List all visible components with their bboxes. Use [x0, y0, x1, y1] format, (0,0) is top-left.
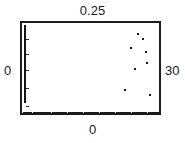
bottom-axis-label: 0 — [0, 123, 185, 136]
y-axis-tick — [26, 88, 29, 89]
left-axis-label: 0 — [4, 64, 11, 77]
plot-canvas — [22, 23, 159, 113]
data-point — [149, 94, 151, 96]
baseline-marker — [29, 112, 32, 115]
data-point — [137, 33, 139, 35]
scatter-plot-figure: 0.25 0 30 0 — [0, 0, 185, 143]
baseline-marker — [157, 112, 160, 115]
y-axis-tick — [26, 54, 29, 55]
plot-frame — [20, 21, 161, 115]
y-axis-tick — [26, 70, 29, 71]
right-axis-label: 30 — [165, 64, 179, 77]
baseline-marker — [144, 112, 147, 115]
data-point — [146, 62, 148, 64]
data-point — [134, 68, 136, 70]
y-axis-tick — [26, 106, 29, 107]
baseline-marker — [64, 112, 67, 115]
data-point — [142, 38, 144, 40]
baseline-marker — [96, 112, 99, 115]
top-axis-label: 0.25 — [0, 4, 185, 17]
baseline-marker — [112, 112, 115, 115]
baseline-marker — [48, 112, 51, 115]
data-point — [124, 89, 126, 91]
baseline-marker — [128, 112, 131, 115]
y-axis-spine — [24, 25, 26, 103]
data-point — [145, 51, 147, 53]
y-axis-tick — [26, 39, 29, 40]
baseline-marker — [80, 112, 83, 115]
data-point — [130, 47, 132, 49]
